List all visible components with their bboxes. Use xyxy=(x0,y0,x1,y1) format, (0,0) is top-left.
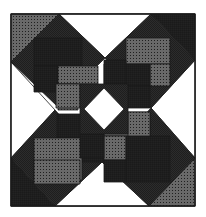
center-top-dark xyxy=(104,60,126,84)
bl-dot-base xyxy=(34,160,80,184)
center-left-dot xyxy=(56,84,80,108)
tr-dark-stem xyxy=(126,86,150,108)
tl-dark-bar-left xyxy=(34,66,58,92)
br-dark-base xyxy=(104,160,126,182)
tr-dot-bar-top xyxy=(126,38,170,64)
tl-dot-bar xyxy=(58,66,98,84)
br-dark-bar xyxy=(126,136,170,182)
tr-dot-bar-right xyxy=(150,64,170,86)
center-right-dot xyxy=(128,112,150,136)
center-bottom-dark xyxy=(80,134,104,158)
quilt-shapes xyxy=(11,14,195,206)
quilt-block xyxy=(0,0,206,217)
tl-dark-bar-top xyxy=(34,38,82,66)
br-dot-stem xyxy=(104,136,126,160)
